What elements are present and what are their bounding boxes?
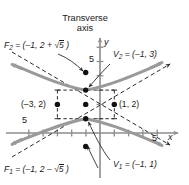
leader-f1 bbox=[88, 146, 99, 168]
f2-close: ) bbox=[64, 40, 69, 50]
y-axis-tick-label-5: 5 bbox=[89, 55, 94, 64]
label-right-box-point: (1, 2) bbox=[119, 100, 139, 109]
y-axis-label: y bbox=[104, 38, 109, 47]
point-right-box bbox=[112, 102, 117, 107]
point-f1 bbox=[83, 144, 88, 149]
point-left-box bbox=[55, 102, 60, 107]
label-focus-1: F1 = (–1, 2 – √5 ) bbox=[4, 164, 69, 175]
header-line1: Transverse bbox=[62, 13, 108, 23]
leader-f2 bbox=[58, 54, 83, 71]
plotted-points bbox=[55, 70, 117, 149]
label-vertex-1: V1 = (–1, 1) bbox=[113, 160, 157, 170]
x-axis-tick-label-right-5: 5 bbox=[152, 134, 157, 143]
f2-radical: √5 bbox=[54, 40, 64, 50]
point-center bbox=[83, 102, 88, 107]
v1-equation: = (–1, 1) bbox=[122, 159, 157, 169]
x-axis-tick-label-left-5: 5 bbox=[22, 116, 27, 125]
point-v1 bbox=[83, 116, 88, 121]
v2-equation: = (–1, 3) bbox=[122, 49, 157, 59]
point-v2 bbox=[83, 87, 88, 92]
transverse-axis-header: Transverse axis bbox=[44, 13, 126, 34]
f1-equation: = (–1, 2 – bbox=[13, 164, 54, 174]
lower-branch bbox=[14, 119, 160, 144]
x-axis-label: x bbox=[168, 133, 173, 142]
point-f2 bbox=[83, 70, 88, 75]
label-vertex-2: V2 = (–1, 3) bbox=[113, 50, 157, 60]
label-focus-2: F2 = (–1, 2 + √5 ) bbox=[4, 40, 69, 51]
upper-branch bbox=[14, 64, 160, 90]
f2-equation: = (–1, 2 + bbox=[13, 40, 55, 50]
label-left-box-point: (–3, 2) bbox=[21, 100, 46, 109]
f1-radical: √5 bbox=[54, 164, 64, 174]
hyperbola-figure: Transverse axis F2 = (–1, 2 + √5 ) V2 = … bbox=[0, 0, 189, 185]
f1-close: ) bbox=[64, 164, 69, 174]
header-line2: axis bbox=[77, 23, 93, 33]
asymptote-positive bbox=[12, 64, 170, 157]
